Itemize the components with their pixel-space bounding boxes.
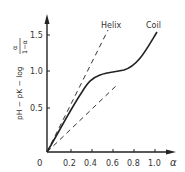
svg-text:pH − pK − log: pH − pK − log — [15, 66, 24, 120]
svg-text:α: α — [11, 46, 19, 50]
y-tick-1.5: 1.5 — [30, 31, 43, 40]
x-tick-0.6: 0.6 — [106, 159, 119, 168]
y-axis-label: pH − pK − log α 1−α — [11, 38, 29, 120]
helix-line — [47, 30, 108, 152]
x-axis-arrow — [166, 150, 176, 155]
x-tick-0.8: 0.8 — [127, 159, 140, 168]
x-tick-0.2: 0.2 — [63, 159, 76, 168]
x-tick-0: 0 — [37, 158, 42, 168]
x-axis-label: α — [170, 157, 177, 168]
x-tick-0.4: 0.4 — [84, 159, 97, 168]
y-tick-1.0: 1.0 — [30, 67, 43, 76]
y-axis-arrow — [45, 14, 50, 24]
helix-label: Helix — [101, 21, 121, 30]
ticks — [47, 35, 155, 152]
x-tick-1.0: 1.0 — [148, 159, 161, 168]
chart: 0 0.2 0.4 0.6 0.8 1.0 α 0.5 1.0 1.5 pH −… — [0, 0, 185, 172]
coil-curve — [47, 32, 157, 152]
lower-dashed-line — [47, 84, 118, 152]
svg-text:1−α: 1−α — [21, 40, 29, 54]
y-tick-0.5: 0.5 — [30, 104, 43, 113]
coil-label: Coil — [146, 21, 161, 30]
